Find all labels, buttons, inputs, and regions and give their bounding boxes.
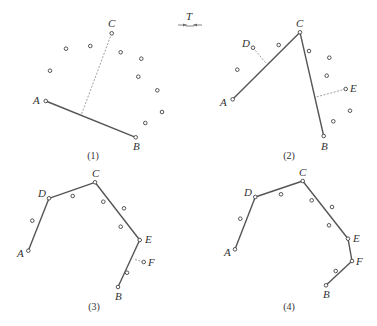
sample-point <box>239 217 243 221</box>
tolerance-symbol: T <box>178 10 202 27</box>
sample-point <box>332 120 336 124</box>
point-label-b: B <box>321 140 328 152</box>
point-label-d: D <box>243 186 252 198</box>
key-point-a <box>27 249 31 253</box>
sample-point <box>348 109 352 113</box>
point-label-e: E <box>352 232 360 244</box>
perpendicular-distance <box>81 33 112 115</box>
sample-point <box>64 47 68 51</box>
panel-3: ABCDEF(3) <box>16 167 155 313</box>
approximation-segment <box>235 197 255 249</box>
approximation-segment <box>28 198 49 250</box>
key-point-f <box>142 260 146 264</box>
sample-point <box>144 121 148 125</box>
panel-1: ABC(1) <box>32 17 164 162</box>
key-point-a <box>44 99 48 103</box>
approximation-segment <box>300 32 324 136</box>
approximation-segment <box>118 240 140 287</box>
perpendicular-distance <box>315 89 346 97</box>
panel-caption: (1) <box>87 150 99 162</box>
panels: ABC(1)ABCDE(2)ABCDEF(3)ABCDEF(4) <box>16 17 363 313</box>
panel-2: ABCDE(2) <box>219 17 357 162</box>
sample-point <box>327 224 331 228</box>
sample-point <box>102 200 106 204</box>
point-label-c: C <box>92 167 100 179</box>
key-point-f <box>350 259 354 263</box>
sample-point <box>279 193 283 197</box>
polyline-simplification-diagram: T ABC(1)ABCDE(2)ABCDEF(3)ABCDEF(4) <box>0 0 377 326</box>
point-label-a: A <box>16 247 24 259</box>
key-point-a <box>231 98 235 102</box>
panel-4: ABCDEF(4) <box>223 166 363 313</box>
point-label-a: A <box>223 246 231 258</box>
sample-point <box>156 89 160 93</box>
sample-point <box>328 56 332 60</box>
key-point-a <box>233 248 237 252</box>
point-label-f: F <box>355 255 363 267</box>
point-label-e: E <box>349 82 357 94</box>
point-label-c: C <box>299 166 307 178</box>
sample-point <box>122 207 126 211</box>
point-label-b: B <box>323 288 330 300</box>
key-point-e <box>344 87 348 91</box>
panel-caption: (3) <box>88 301 100 313</box>
approximation-segment <box>303 181 348 239</box>
point-label-c: C <box>108 17 116 29</box>
key-point-d <box>251 46 255 50</box>
key-point-c <box>93 181 97 185</box>
sample-point <box>236 68 240 72</box>
sample-point <box>140 57 144 61</box>
point-label-f: F <box>147 256 155 268</box>
key-point-c <box>298 31 302 35</box>
approximation-segment <box>46 101 136 137</box>
key-point-e <box>346 237 350 241</box>
panel-caption: (4) <box>283 301 295 313</box>
sample-point <box>119 51 123 55</box>
sample-point <box>31 219 35 223</box>
perpendicular-distance <box>253 48 266 63</box>
key-point-b <box>324 284 328 288</box>
sample-point <box>277 43 281 47</box>
sample-point <box>325 74 329 78</box>
sample-point <box>119 225 123 229</box>
point-label-b: B <box>133 140 140 152</box>
key-point-d <box>254 195 258 199</box>
sample-point <box>137 75 141 79</box>
sample-point <box>310 199 314 203</box>
key-point-c <box>301 179 305 183</box>
point-label-c: C <box>296 17 304 29</box>
point-label-d: D <box>37 187 46 199</box>
point-label-e: E <box>144 233 152 245</box>
sample-point <box>125 271 129 275</box>
panel-caption: (2) <box>283 150 295 162</box>
key-point-b <box>116 285 120 289</box>
point-label-a: A <box>219 96 227 108</box>
point-label-d: D <box>241 37 250 49</box>
approximation-segment <box>95 182 140 240</box>
sample-point <box>334 269 338 273</box>
key-point-d <box>47 197 51 201</box>
approximation-segment <box>326 261 352 285</box>
key-point-c <box>110 32 114 36</box>
key-point-b <box>134 136 138 140</box>
sample-point <box>160 110 164 114</box>
sample-point <box>71 194 75 198</box>
key-point-b <box>322 134 326 138</box>
sample-point <box>89 44 93 48</box>
tolerance-label: T <box>186 10 193 22</box>
sample-point <box>330 205 334 209</box>
approximation-segment <box>348 239 352 261</box>
point-label-a: A <box>32 94 40 106</box>
point-label-b: B <box>115 290 122 302</box>
sample-point <box>307 49 311 53</box>
sample-point <box>48 69 52 73</box>
key-point-e <box>138 238 142 242</box>
